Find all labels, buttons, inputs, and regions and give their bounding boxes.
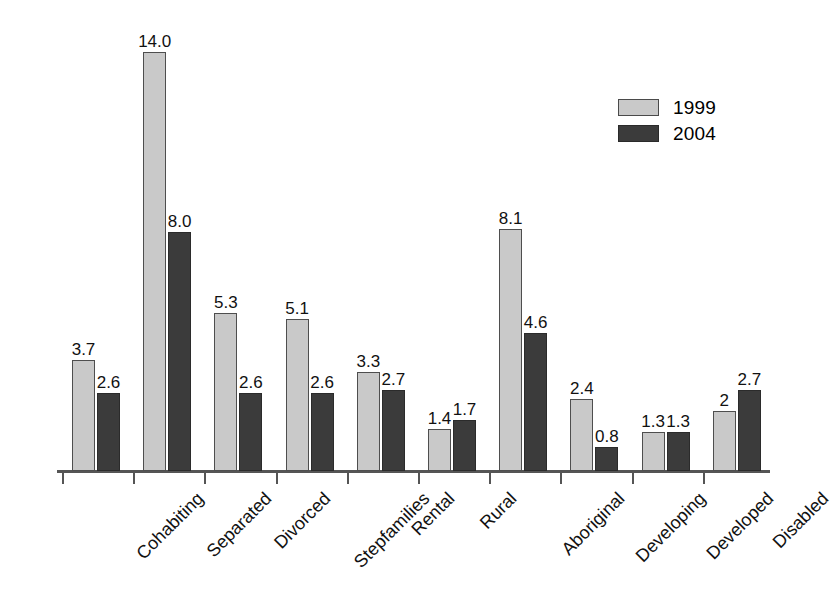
bar-value-label: 2.6 xyxy=(239,374,263,391)
bar-1999[interactable]: 1.4 xyxy=(428,429,451,471)
x-axis-tick xyxy=(62,473,64,484)
bar-2004[interactable]: 2.7 xyxy=(738,390,761,471)
x-axis-label-cohabiting: Cohabiting xyxy=(133,489,207,563)
bar-2004[interactable]: 0.8 xyxy=(595,447,618,471)
bar-1999[interactable]: 2 xyxy=(713,411,736,471)
bar-2004[interactable]: 1.3 xyxy=(667,432,690,471)
bar-2004[interactable]: 2.6 xyxy=(239,393,262,471)
bar-1999[interactable]: 8.1 xyxy=(499,229,522,471)
bar-value-label: 5.3 xyxy=(214,294,238,311)
bar-2004[interactable]: 2.6 xyxy=(97,393,120,471)
bar-value-label: 2.6 xyxy=(310,374,334,391)
bar-2004[interactable]: 1.7 xyxy=(453,420,476,471)
bar-2004[interactable]: 2.6 xyxy=(311,393,334,471)
bar-value-label: 2.6 xyxy=(97,374,121,391)
x-axis-label-rural: Rural xyxy=(477,489,520,532)
bar-value-label: 1.3 xyxy=(666,413,690,430)
x-axis-tick xyxy=(133,473,135,484)
bar-value-label: 8.1 xyxy=(499,210,523,227)
bar-value-label: 1.3 xyxy=(641,413,665,430)
x-axis-tick xyxy=(347,473,349,484)
bar-1999[interactable]: 2.4 xyxy=(570,399,593,471)
bar-value-label: 4.6 xyxy=(524,314,548,331)
bar-value-label: 2.7 xyxy=(381,371,405,388)
bar-1999[interactable]: 5.1 xyxy=(286,319,309,471)
x-axis-tick xyxy=(418,473,420,484)
bar-value-label: 1.4 xyxy=(428,410,452,427)
bar-value-label: 5.1 xyxy=(285,300,309,317)
bar-1999[interactable]: 5.3 xyxy=(214,313,237,471)
x-axis-label-developing: Developing xyxy=(633,489,709,565)
x-axis-label-disabled: Disabled xyxy=(769,489,831,551)
x-axis-tick xyxy=(276,473,278,484)
x-axis-label-developed: Developed xyxy=(703,489,777,563)
bar-2004[interactable]: 2.7 xyxy=(382,390,405,471)
x-axis-tick xyxy=(560,473,562,484)
x-axis-tick xyxy=(703,473,705,484)
x-axis-label-divorced: Divorced xyxy=(271,489,334,552)
x-axis-tick xyxy=(489,473,491,484)
bar-1999[interactable]: 1.3 xyxy=(642,432,665,471)
x-axis-tick xyxy=(204,473,206,484)
bar-2004[interactable]: 8.0 xyxy=(168,232,191,471)
bar-value-label: 3.7 xyxy=(72,341,96,358)
bar-value-label: 3.3 xyxy=(356,353,380,370)
x-axis-label-aboriginal: Aboriginal xyxy=(559,489,628,558)
plot-area: 3.72.614.08.05.32.65.12.63.32.71.41.78.1… xyxy=(57,30,770,471)
bar-value-label: 0.8 xyxy=(595,428,619,445)
bar-value-label: 8.0 xyxy=(168,213,192,230)
x-axis-label-separated: Separated xyxy=(204,489,275,560)
bar-value-label: 1.7 xyxy=(453,401,477,418)
bar-value-label: 2.7 xyxy=(737,371,761,388)
bar-1999[interactable]: 3.7 xyxy=(72,360,95,471)
bar-value-label: 2.4 xyxy=(570,380,594,397)
bar-value-label: 14.0 xyxy=(138,33,171,50)
bar-1999[interactable]: 14.0 xyxy=(143,52,166,471)
bar-1999[interactable]: 3.3 xyxy=(357,372,380,471)
bar-2004[interactable]: 4.6 xyxy=(524,333,547,471)
bar-value-label: 2 xyxy=(720,392,729,409)
x-axis-tick xyxy=(632,473,634,484)
